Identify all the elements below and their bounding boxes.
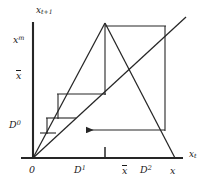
x-tick-label-d-one: D1 xyxy=(74,165,86,175)
y-tick-label-x-bar: x xyxy=(16,71,21,81)
x-tick-label-d-two: D2 xyxy=(140,165,152,175)
diagram-canvas xyxy=(0,0,212,187)
x-tick-label-zero: 0 xyxy=(29,165,35,175)
x-axis-label: xt xyxy=(189,150,197,159)
x-tick-label-x-final: x xyxy=(170,166,175,176)
y-tick-label-x-max: xm xyxy=(13,35,24,45)
tent-map-rising-branch xyxy=(33,23,105,158)
y-tick-label-d-zero: D0 xyxy=(9,120,21,130)
x-tick-label-x-bar: x xyxy=(122,166,127,176)
overbar-y-xbar xyxy=(16,70,21,71)
identity-diagonal-line xyxy=(33,17,186,158)
overbar-x-xbar xyxy=(122,165,127,166)
y-axis-label: xt+1 xyxy=(36,6,53,15)
cobweb-diagram-figure: xt+1 xt xm x D0 0 D1 x D2 x xyxy=(0,0,212,187)
